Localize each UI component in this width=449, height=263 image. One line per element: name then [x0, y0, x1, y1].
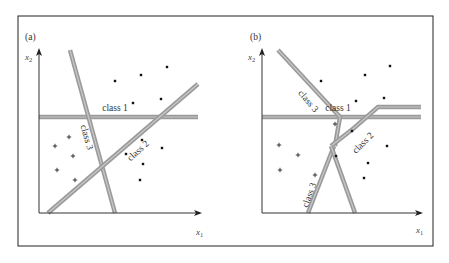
data-point-dot [166, 66, 168, 68]
x1-axis-label: x1 [415, 225, 423, 236]
data-point-dot [140, 74, 142, 76]
boundary-label: class 1 [325, 103, 351, 113]
data-point-dot [132, 102, 134, 104]
data-point-plus [296, 153, 300, 157]
data-point-plus [55, 168, 59, 172]
data-point-dot [161, 147, 163, 149]
data-point-plus [313, 173, 317, 177]
data-point-plus [71, 154, 75, 158]
data-point-dot [389, 65, 391, 67]
data-point-dot [351, 130, 353, 132]
data-point-dot [383, 97, 385, 99]
data-point-dot [335, 155, 337, 157]
decision-boundary-class-2-lower [331, 146, 355, 213]
data-point-plus [67, 135, 71, 139]
data-point-dot [363, 177, 365, 179]
panel-label: (a) [25, 32, 36, 43]
boundary-label: class 1 [102, 103, 128, 113]
data-point-dot [320, 80, 322, 82]
data-point-dot [386, 145, 388, 147]
data-point-plus [53, 144, 57, 148]
panel-a: class 1class 3class 2(a)x2x1 [24, 32, 203, 238]
data-point-dot [125, 153, 127, 155]
data-point-plus [277, 143, 281, 147]
data-point-plus [278, 168, 282, 172]
classification-figure: class 1class 3class 2(a)x2x1class 1class… [0, 0, 449, 263]
x2-axis-label: x2 [24, 52, 32, 63]
data-point-dot [364, 74, 366, 76]
data-point-dot [160, 98, 162, 100]
data-point-dot [355, 100, 357, 102]
data-point-dot [141, 139, 143, 141]
data-point-dot [142, 163, 144, 165]
boundary-label: class 2 [350, 130, 375, 155]
data-point-plus [73, 178, 77, 182]
data-point-dot [139, 179, 141, 181]
data-point-dot [367, 162, 369, 164]
x1-axis-label: x1 [195, 227, 203, 238]
x2-axis-label: x2 [247, 52, 255, 63]
data-point-dot [114, 80, 116, 82]
decision-boundary-class-3-lower [308, 146, 334, 213]
panel-label: (b) [250, 32, 261, 43]
panel-b: class 1class 3class 2class 3(b)x2x1 [247, 32, 423, 236]
